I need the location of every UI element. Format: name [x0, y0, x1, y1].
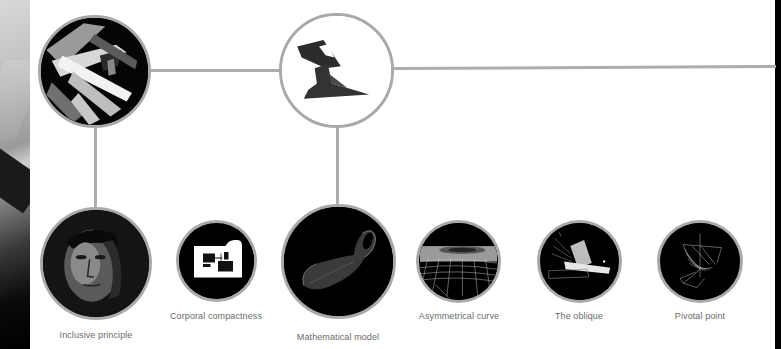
connector-center-down: [336, 126, 339, 205]
floor-plan-image: [179, 223, 254, 299]
label-mathematical-model: Mathematical model: [297, 332, 379, 342]
node-corporal-compactness[interactable]: [176, 220, 257, 302]
label-asymmetrical-curve: Asymmetrical curve: [419, 311, 499, 321]
node-top-left-architectural[interactable]: [38, 15, 151, 128]
node-inclusive-principle[interactable]: [40, 207, 152, 320]
klein-bottle-image: [284, 207, 393, 316]
face-portrait-image: [43, 210, 149, 317]
label-pivotal-point: Pivotal point: [675, 311, 725, 321]
abstract-architecture-image: [41, 18, 148, 125]
connector-center-to-right: [392, 65, 776, 70]
twisted-wireframe-image: [660, 223, 740, 300]
node-the-oblique[interactable]: [537, 220, 622, 303]
label-corporal-compactness: Corporal compactness: [170, 311, 262, 321]
node-mathematical-model[interactable]: [281, 204, 396, 319]
label-the-oblique: The oblique: [555, 311, 603, 321]
connector-top-left-down: [94, 126, 97, 208]
connector-top-left-to-center: [150, 69, 280, 72]
dark-sculpture-image: [282, 16, 391, 125]
right-edge-black-strip: [775, 0, 781, 349]
node-top-center-sculpture[interactable]: [279, 13, 394, 128]
wireframe-surface-image: [419, 223, 498, 300]
left-edge-photo-strip: [0, 0, 30, 349]
node-asymmetrical-curve[interactable]: [416, 220, 501, 303]
oblique-planes-image: [540, 223, 619, 300]
label-inclusive-principle: Inclusive principle: [60, 330, 133, 340]
node-pivotal-point[interactable]: [657, 220, 743, 303]
